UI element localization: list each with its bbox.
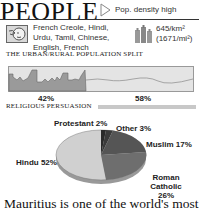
- language-line: Urdu, Tamil, Chinese,: [33, 33, 123, 43]
- urban-rural-heading: THE URBAN/RURAL POPULATION SPLIT: [6, 50, 143, 58]
- urban-rural-bar-chart: [8, 66, 194, 92]
- label-muslim: Muslim 17%: [146, 140, 192, 149]
- languages-list: French Creole, Hindi, Urdu, Tamil, Chine…: [33, 23, 123, 53]
- heading-rule: [98, 105, 196, 109]
- language-line: French Creole, Hindi,: [33, 23, 123, 33]
- language-face-icon: [6, 25, 28, 43]
- body-paragraph: Mauritius is one of the world's most: [4, 196, 198, 212]
- label-other: Other 3%: [116, 124, 151, 133]
- density-km: 645/km²: [156, 24, 192, 34]
- religion-pie-chart: [55, 128, 147, 186]
- divider: [0, 19, 199, 20]
- label-hindu: Hindu 52%: [16, 158, 57, 167]
- arrow-right-icon: [100, 3, 111, 17]
- density-note: Pop. density high: [115, 5, 176, 14]
- city-buildings-icon: [134, 24, 154, 44]
- religion-heading: RELIGIOUS PERSUASION: [6, 102, 92, 110]
- population-density: 645/km² (1671/mi²): [156, 24, 192, 44]
- rural-percent: 58%: [135, 94, 151, 103]
- label-protestant: Protestant 2%: [54, 119, 107, 128]
- density-mi: (1671/mi²): [156, 34, 192, 44]
